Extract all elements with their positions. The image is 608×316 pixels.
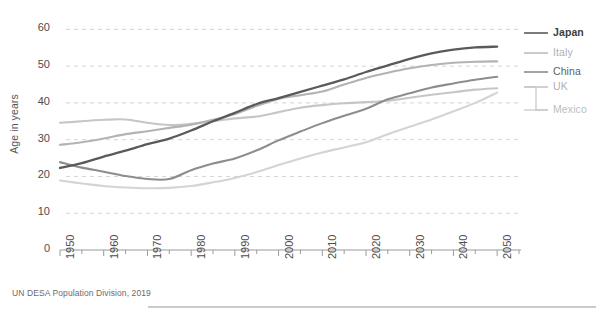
x-tick-label-1960: 1960 (108, 235, 120, 259)
x-tick-label-2020: 2020 (370, 235, 382, 259)
x-tick-label-2000: 2000 (283, 235, 295, 259)
legend-item-italy[interactable]: Italy (553, 46, 573, 58)
legend-item-mexico[interactable]: Mexico (553, 103, 587, 115)
chart-container: Age in years 6050403020100 1950196019701… (0, 0, 608, 316)
y-axis-title: Age in years (8, 74, 20, 174)
line-chart-plot (0, 0, 608, 316)
x-tick-label-2030: 2030 (414, 235, 426, 259)
legend-bracket-path (524, 87, 548, 110)
y-tick-label-0: 0 (18, 242, 50, 254)
y-tick-label-60: 60 (18, 21, 50, 33)
y-tick-label-40: 40 (18, 95, 50, 107)
legend-item-china[interactable]: China (553, 65, 581, 77)
x-tick-label-1970: 1970 (151, 235, 163, 259)
x-tick-label-2050: 2050 (501, 235, 513, 259)
y-tick-label-50: 50 (18, 58, 50, 70)
y-tick-label-30: 30 (18, 132, 50, 144)
x-tick-label-2010: 2010 (326, 235, 338, 259)
legend-bracket (524, 87, 548, 110)
x-tick-label-1980: 1980 (195, 235, 207, 259)
y-tick-label-20: 20 (18, 168, 50, 180)
legend-item-japan[interactable]: Japan (553, 26, 584, 38)
x-tick-label-2040: 2040 (457, 235, 469, 259)
y-tick-label-10: 10 (18, 205, 50, 217)
legend-item-uk[interactable]: UK (553, 80, 568, 92)
data-series-lines (60, 47, 497, 189)
source-attribution: UN DESA Population Division, 2019 (12, 288, 151, 298)
x-tick-label-1990: 1990 (239, 235, 251, 259)
x-tick-label-1950: 1950 (64, 235, 76, 259)
